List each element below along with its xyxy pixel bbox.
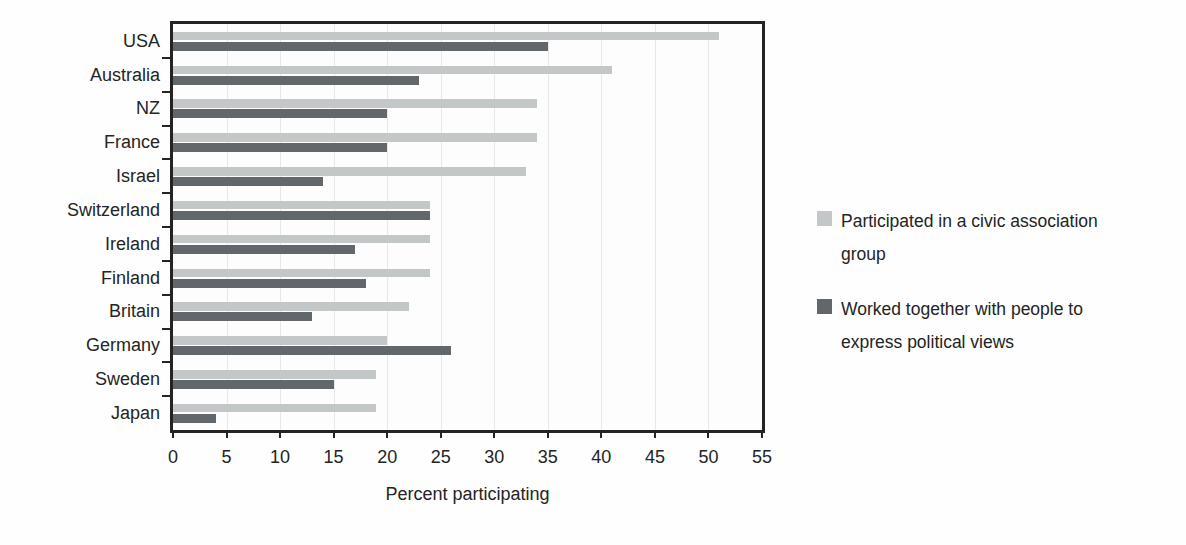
bar-civic-association — [173, 167, 526, 176]
gridline — [708, 24, 709, 430]
gridline — [601, 24, 602, 430]
bar-civic-association — [173, 66, 612, 75]
bar-civic-association — [173, 32, 719, 41]
x-axis-tick-label: 30 — [469, 447, 519, 468]
bar-civic-association — [173, 370, 376, 379]
bar-political-views — [173, 177, 323, 186]
x-axis-tick-label: 20 — [362, 447, 412, 468]
bar-political-views — [173, 42, 548, 51]
y-axis-category-label: USA — [0, 31, 160, 52]
x-axis-tick-label: 40 — [576, 447, 626, 468]
gridline — [387, 24, 388, 430]
legend-item-civic: Participated in a civic associationgroup — [817, 205, 1167, 271]
bar-political-views — [173, 380, 334, 389]
bar-political-views — [173, 245, 355, 254]
y-axis-tick — [162, 226, 170, 228]
bar-political-views — [173, 76, 419, 85]
x-axis-tick — [386, 430, 388, 438]
x-axis-tick — [761, 430, 763, 438]
bar-political-views — [173, 109, 387, 118]
y-axis-category-label: Sweden — [0, 369, 160, 390]
x-axis-tick-label: 10 — [255, 447, 305, 468]
x-axis-tick — [654, 430, 656, 438]
plot-area — [170, 21, 765, 433]
y-axis-tick — [162, 260, 170, 262]
x-axis-tick — [172, 430, 174, 438]
y-axis-category-label: NZ — [0, 98, 160, 119]
y-axis-category-label: Australia — [0, 65, 160, 86]
y-axis-category-label: Israel — [0, 166, 160, 187]
x-axis-tick — [600, 430, 602, 438]
legend-swatch-political-icon — [817, 299, 832, 314]
legend-label-civic: Participated in a civic associationgroup — [841, 205, 1098, 271]
y-axis-tick — [162, 57, 170, 59]
bar-political-views — [173, 143, 387, 152]
bar-political-views — [173, 346, 451, 355]
y-axis-category-label: Britain — [0, 301, 160, 322]
x-axis-tick — [493, 430, 495, 438]
x-axis-tick — [226, 430, 228, 438]
gridline — [548, 24, 549, 430]
y-axis-tick — [162, 395, 170, 397]
x-axis-tick-label: 25 — [416, 447, 466, 468]
x-axis-tick-label: 35 — [523, 447, 573, 468]
bar-civic-association — [173, 302, 409, 311]
legend-label-political: Worked together with people toexpress po… — [841, 293, 1083, 359]
y-axis-category-label: Germany — [0, 335, 160, 356]
bar-chart-figure: USAAustraliaNZFranceIsraelSwitzerlandIre… — [0, 0, 1186, 545]
bar-political-views — [173, 312, 312, 321]
x-axis-tick-label: 0 — [148, 447, 198, 468]
x-axis-tick — [279, 430, 281, 438]
x-axis-title: Percent participating — [173, 484, 762, 505]
x-axis-tick — [333, 430, 335, 438]
bar-civic-association — [173, 99, 537, 108]
x-axis-tick-label: 45 — [630, 447, 680, 468]
y-axis-category-label: Switzerland — [0, 200, 160, 221]
gridline — [655, 24, 656, 430]
bar-civic-association — [173, 269, 430, 278]
legend-label-civic-line1: Participated in a civic association — [841, 211, 1098, 231]
legend-label-political-line2: express political views — [841, 332, 1014, 352]
y-axis-tick — [162, 192, 170, 194]
x-axis-tick — [547, 430, 549, 438]
y-axis-category-label: France — [0, 132, 160, 153]
bar-political-views — [173, 211, 430, 220]
y-axis-tick — [162, 361, 170, 363]
x-axis-tick — [707, 430, 709, 438]
y-axis-tick — [162, 328, 170, 330]
legend: Participated in a civic associationgroup… — [817, 205, 1167, 381]
y-axis-tick — [162, 91, 170, 93]
bar-civic-association — [173, 235, 430, 244]
bar-civic-association — [173, 133, 537, 142]
bar-political-views — [173, 279, 366, 288]
x-axis-tick — [440, 430, 442, 438]
bar-civic-association — [173, 404, 376, 413]
bar-civic-association — [173, 201, 430, 210]
x-axis-tick-label: 5 — [202, 447, 252, 468]
bar-civic-association — [173, 336, 387, 345]
legend-item-political: Worked together with people toexpress po… — [817, 293, 1167, 359]
gridline — [494, 24, 495, 430]
y-axis-tick — [162, 294, 170, 296]
gridline — [441, 24, 442, 430]
y-axis-tick — [162, 158, 170, 160]
legend-label-political-line1: Worked together with people to — [841, 299, 1083, 319]
y-axis-category-label: Japan — [0, 403, 160, 424]
legend-label-civic-line2: group — [841, 244, 886, 264]
x-axis-tick-label: 50 — [683, 447, 733, 468]
x-axis-tick-label: 55 — [737, 447, 787, 468]
legend-swatch-civic-icon — [817, 211, 832, 226]
x-axis-tick-label: 15 — [309, 447, 359, 468]
y-axis-tick — [162, 125, 170, 127]
y-axis-category-label: Finland — [0, 268, 160, 289]
y-axis-category-label: Ireland — [0, 234, 160, 255]
bar-political-views — [173, 414, 216, 423]
